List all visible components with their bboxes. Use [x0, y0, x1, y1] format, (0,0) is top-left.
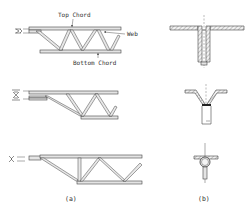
caption-a: (a)	[65, 195, 77, 203]
support-symbol-2	[12, 90, 29, 100]
web-members-3	[78, 158, 142, 181]
caption-b: (b)	[198, 195, 210, 203]
bottom-chord-2	[81, 116, 118, 119]
top-chord-1	[29, 27, 121, 30]
leader-web	[104, 32, 125, 34]
web-members-1	[36, 30, 120, 50]
bottom-chord-3	[77, 181, 142, 184]
section-detail-1	[170, 15, 244, 68]
label-top-chord: Top Chord	[58, 11, 91, 19]
top-chord-2	[29, 91, 118, 94]
support-symbol-3	[9, 156, 25, 162]
joist-3-elevation	[9, 155, 142, 184]
label-bottom-chord: Bottom Chord	[73, 59, 117, 66]
joist-1-elevation: Top Chord Web Bottom Chord	[15, 11, 138, 66]
top-chord-3	[40, 155, 142, 158]
web-members-2	[66, 94, 117, 116]
bottom-chord-1	[40, 50, 121, 53]
joist-2-elevation	[12, 90, 118, 119]
support-symbol-1	[15, 29, 29, 33]
section-detail-2	[185, 84, 227, 124]
label-web: Web	[127, 30, 138, 37]
truss-diagram: Top Chord Web Bottom Chord	[0, 0, 252, 207]
section-detail-3	[194, 143, 218, 183]
